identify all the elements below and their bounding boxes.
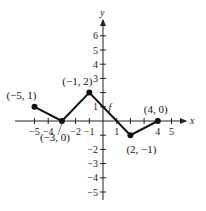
y-tick-label: 5 [93, 45, 98, 56]
x-tick-label: −2 [70, 126, 81, 137]
data-point [86, 90, 92, 96]
x-tick-label: 5 [169, 126, 174, 137]
y-tick-label: −5 [87, 187, 98, 198]
y-tick-label: 3 [93, 73, 98, 84]
function-graph: xy−5−4−2−1145−5−4−3−213456f(−5, 1)(−3, 0… [0, 0, 206, 211]
data-point [59, 118, 65, 124]
data-point [32, 104, 38, 110]
y-tick-label: 6 [93, 30, 98, 41]
point-label: (−3, 0) [40, 131, 70, 144]
point-label: (−5, 1) [7, 89, 37, 102]
y-tick-label: 4 [93, 59, 98, 70]
y-axis-label: y [99, 7, 105, 18]
y-tick-label: −2 [87, 144, 98, 155]
x-axis-label: x [189, 115, 195, 126]
point-label: (2, −1) [126, 143, 156, 156]
point-label: (−1, 2) [62, 75, 92, 88]
function-label: f [108, 102, 112, 113]
x-tick-label: −1 [84, 126, 95, 137]
data-point [127, 132, 133, 138]
y-tick-label: −4 [87, 172, 98, 183]
y-tick-label: 1 [93, 101, 98, 112]
data-point [155, 118, 161, 124]
x-tick-label: −5 [29, 126, 40, 137]
x-tick-label: 1 [114, 126, 119, 137]
x-tick-label: 4 [155, 126, 160, 137]
y-tick-label: −3 [87, 158, 98, 169]
point-label: (4, 0) [144, 103, 168, 116]
